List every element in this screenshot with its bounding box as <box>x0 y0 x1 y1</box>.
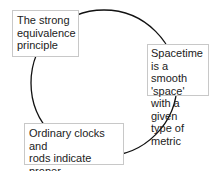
node-ordinary-clocks-rods: Ordinary clocks and rods indicate proper… <box>24 123 124 165</box>
node-strong-equivalence-principle: The strong equivalence principle <box>12 10 79 57</box>
node-spacetime-smooth-space: Spacetime is a smooth 'space' with a giv… <box>147 44 209 96</box>
